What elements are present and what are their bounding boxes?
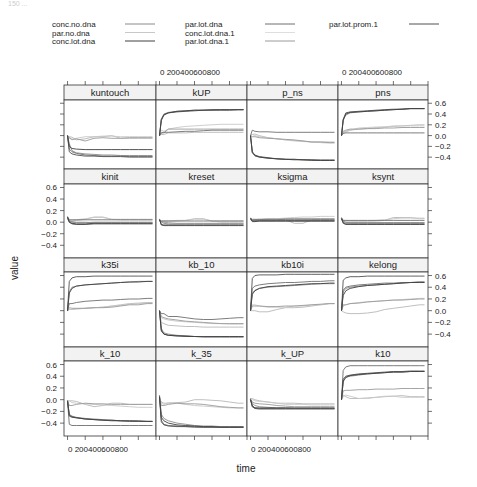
x-tick-labels-bottom: 0 200400600800 xyxy=(68,445,129,454)
panel-strip-label: kUP xyxy=(193,87,211,98)
panel-strip-label: k10 xyxy=(375,348,390,359)
y-tick-label-right: 0.6 xyxy=(435,99,447,108)
panel-k10: k10 xyxy=(338,347,428,436)
panel-strip-label: kinit xyxy=(102,171,119,182)
panel-strip-label: kuntouch xyxy=(91,87,130,98)
y-tick-label-left: 0.2 xyxy=(46,207,58,216)
y-tick-label-right: 0.4 xyxy=(435,283,447,292)
panel-strip-label: k_UP xyxy=(281,348,304,359)
y-tick-label-left: 0.0 xyxy=(46,218,58,227)
y-tick-label-left: −0.2 xyxy=(41,230,57,239)
x-tick-labels-top: 0 200400600800 xyxy=(342,68,403,77)
panel-strip-label: k35i xyxy=(101,259,118,270)
panel-k35i: k35i xyxy=(64,258,156,347)
panel-k_10: k_10 xyxy=(64,347,156,436)
y-tick-label-right: 0.0 xyxy=(435,307,447,316)
panel-strip-label: kreset xyxy=(189,171,215,182)
y-tick-label-left: −0.4 xyxy=(41,419,57,428)
panel-p_ns: p_ns xyxy=(247,85,338,169)
panel-kreset: kreset xyxy=(156,169,247,258)
panel-k_35: k_35 xyxy=(156,347,247,436)
panel-strip-label: k_10 xyxy=(100,348,121,359)
legend-label: conc.lot.dna xyxy=(52,37,96,46)
lattice-chart: conc.no.dnapar.no.dnaconc.lot.dnapar.lot… xyxy=(0,0,477,487)
y-tick-label-right: 0.6 xyxy=(435,272,447,281)
panel-kUP: kUP xyxy=(156,85,247,169)
y-tick-label-left: 0.4 xyxy=(46,195,58,204)
panel-strip-label: ksigma xyxy=(277,171,308,182)
y-tick-label-right: −0.4 xyxy=(435,153,451,162)
panel-ksynt: ksynt xyxy=(338,169,428,258)
panel-kb_10: kb_10 xyxy=(156,258,247,347)
panel-strip-label: k_35 xyxy=(191,348,212,359)
panel-strip-label: kb10i xyxy=(281,259,304,270)
panel-kuntouch: kuntouch xyxy=(64,85,156,169)
y-tick-label-right: 0.4 xyxy=(435,110,447,119)
y-tick-label-left: 0.2 xyxy=(46,384,58,393)
y-tick-label-right: −0.2 xyxy=(435,318,451,327)
panel-kb10i: kb10i xyxy=(247,258,338,347)
panel-grid: kuntouchkUPp_nspnskinitkresetksigmaksynt… xyxy=(64,85,428,436)
y-tick-label-right: 0.2 xyxy=(435,295,447,304)
y-tick-label-left: −0.2 xyxy=(41,407,57,416)
x-tick-labels-bottom: 0 200400600800 xyxy=(251,445,312,454)
y-tick-label-right: 0.0 xyxy=(435,132,447,141)
panel-kelong: kelong xyxy=(338,258,428,347)
panel-strip-label: kb_10 xyxy=(189,259,215,270)
x-axis-label: time xyxy=(237,463,256,474)
y-tick-label-left: 0.4 xyxy=(46,372,58,381)
panel-ksigma: ksigma xyxy=(247,169,338,258)
legend-label: par.lot.prom.1 xyxy=(329,20,378,29)
y-tick-label-right: 0.2 xyxy=(435,121,447,130)
y-axis-label: value xyxy=(9,256,20,280)
panel-strip-label: ksynt xyxy=(372,171,395,182)
legend-label: par.lot.dna.1 xyxy=(185,37,230,46)
x-tick-labels-top: 0 200400600800 xyxy=(160,68,221,77)
panel-kinit: kinit xyxy=(64,169,156,258)
panel-strip-label: pns xyxy=(375,87,391,98)
panel-k_UP: k_UP xyxy=(247,347,338,436)
y-tick-label-right: −0.2 xyxy=(435,142,451,151)
panel-pns: pns xyxy=(338,85,428,169)
legend: conc.no.dnapar.no.dnaconc.lot.dnapar.lot… xyxy=(52,20,439,46)
y-tick-label-left: −0.4 xyxy=(41,241,57,250)
y-tick-label-left: 0.6 xyxy=(46,183,58,192)
panel-strip-label: kelong xyxy=(369,259,397,270)
y-tick-label-left: 0.6 xyxy=(46,361,58,370)
panel-strip-label: p_ns xyxy=(282,87,303,98)
y-tick-label-left: 0.0 xyxy=(46,396,58,405)
y-tick-label-right: −0.4 xyxy=(435,330,451,339)
